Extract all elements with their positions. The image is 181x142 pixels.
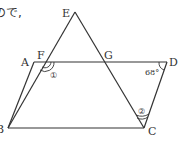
label-a: A [20, 56, 30, 69]
label-f: F [37, 49, 45, 62]
label-d: D [169, 56, 178, 69]
angle-marker-2: ② [138, 107, 145, 116]
geometry-figure: E A F G D B C 68° ① ② [0, 0, 181, 142]
angle-marker-1: ① [50, 71, 57, 80]
label-e: E [62, 7, 70, 20]
angle-d-value: 68° [145, 68, 159, 77]
label-b: B [0, 123, 4, 136]
segment-eb [8, 12, 75, 128]
segment-ec [75, 12, 144, 128]
label-g: G [104, 49, 113, 62]
segment-ab [8, 62, 34, 128]
label-c: C [148, 125, 156, 138]
angle-arc-d [159, 62, 164, 70]
